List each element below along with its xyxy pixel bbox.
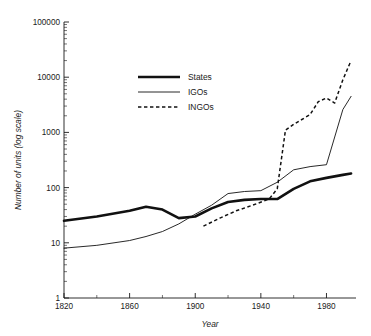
x-axis-tick-labels: 18201860190019401980 xyxy=(55,302,336,311)
series-line-igos xyxy=(64,96,351,248)
y-axis-tick-labels: 110100100010000100000 xyxy=(33,18,61,303)
chart-figure: 110100100010000100000 Number of units (l… xyxy=(0,0,371,336)
y-axis: 110100100010000100000 Number of units (l… xyxy=(13,18,69,303)
x-tick-label: 1900 xyxy=(186,302,205,311)
x-axis: 18201860190019401980 Year xyxy=(55,293,356,329)
legend-label-igos: IGOs xyxy=(188,87,208,97)
x-tick-label: 1980 xyxy=(317,302,336,311)
y-tick-label: 100000 xyxy=(33,18,61,27)
x-tick-label: 1820 xyxy=(55,302,74,311)
legend-label-states: States xyxy=(188,72,212,82)
y-tick-label: 10 xyxy=(51,239,61,248)
y-axis-ticks xyxy=(64,22,69,298)
y-tick-label: 1000 xyxy=(42,128,61,137)
x-tick-label: 1860 xyxy=(121,302,140,311)
x-tick-label: 1940 xyxy=(252,302,271,311)
chart-legend: StatesIGOsINGOs xyxy=(138,72,214,112)
y-tick-label: 100 xyxy=(46,184,60,193)
series-line-ingos xyxy=(203,61,351,227)
series-line-states xyxy=(64,174,351,221)
x-axis-title: Year xyxy=(201,319,219,329)
y-tick-label: 10000 xyxy=(37,73,60,82)
legend-label-ingos: INGOs xyxy=(188,102,214,112)
y-axis-title: Number of units (log scale) xyxy=(13,110,23,210)
x-axis-ticks xyxy=(64,293,326,298)
line-chart: 110100100010000100000 Number of units (l… xyxy=(0,0,371,336)
